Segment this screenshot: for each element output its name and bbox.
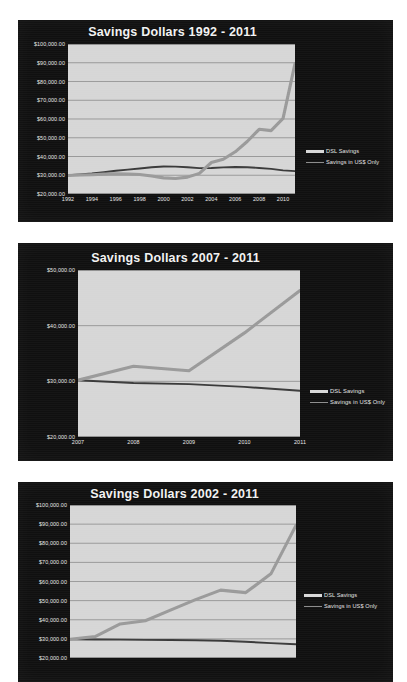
chart-panel-2007-2011: Savings Dollars 2007 - 2011 $50,000.00$4… bbox=[18, 243, 393, 461]
legend-item-usd: Savings in US$ Only bbox=[304, 603, 377, 609]
x-axis-tick-label: 2002 bbox=[181, 196, 193, 202]
series-line-usd bbox=[78, 380, 300, 391]
plot-area-2 bbox=[78, 270, 300, 437]
legend-swatch-usd-icon bbox=[310, 402, 328, 403]
y-axis-tick-label: $20,000.00 bbox=[47, 434, 75, 440]
x-axis-tick-label: 2009 bbox=[183, 439, 195, 445]
series-line-dsl bbox=[70, 525, 296, 639]
legend-item-usd: Savings in US$ Only bbox=[310, 399, 385, 405]
y-axis-tick-label: $60,000.00 bbox=[39, 579, 67, 585]
y-axis-tick-label: $90,000.00 bbox=[37, 60, 65, 66]
x-axis-labels-1: 1992199419961998200020022004200620082010 bbox=[68, 196, 295, 208]
legend-label-dsl: DSL Savings bbox=[324, 592, 357, 598]
legend-item-dsl: DSL Savings bbox=[306, 148, 379, 154]
x-axis-labels-2: 20072008200920102011 bbox=[78, 439, 300, 451]
y-axis-tick-label: $40,000.00 bbox=[47, 323, 75, 329]
legend-item-dsl: DSL Savings bbox=[310, 388, 385, 394]
x-axis-tick-label: 2007 bbox=[72, 439, 84, 445]
legend-1: DSL Savings Savings in US$ Only bbox=[306, 148, 379, 170]
y-axis-tick-label: $80,000.00 bbox=[37, 79, 65, 85]
y-axis-tick-label: $40,000.00 bbox=[37, 154, 65, 160]
y-axis-tick-label: $80,000.00 bbox=[39, 540, 67, 546]
x-axis-tick-label: 1994 bbox=[86, 196, 98, 202]
x-axis-tick-label: 2010 bbox=[238, 439, 250, 445]
legend-3: DSL Savings Savings in US$ Only bbox=[304, 592, 377, 614]
y-axis-tick-label: $40,000.00 bbox=[39, 617, 67, 623]
y-axis-tick-label: $30,000.00 bbox=[47, 378, 75, 384]
legend-label-dsl: DSL Savings bbox=[330, 388, 364, 394]
plot-svg-2 bbox=[78, 270, 300, 437]
series-line-dsl bbox=[78, 291, 300, 381]
x-axis-tick-label: 2008 bbox=[253, 196, 265, 202]
legend-swatch-usd-icon bbox=[306, 162, 324, 163]
plot-area-3 bbox=[70, 505, 296, 658]
series-line-usd bbox=[70, 639, 296, 644]
page-root: Savings Dollars 1992 - 2011 $100,000.00$… bbox=[0, 0, 407, 682]
y-axis-tick-label: $30,000.00 bbox=[37, 172, 65, 178]
legend-label-usd: Savings in US$ Only bbox=[330, 399, 385, 405]
legend-label-dsl: DSL Savings bbox=[326, 148, 359, 154]
x-axis-tick-label: 2000 bbox=[157, 196, 169, 202]
x-axis-tick-label: 2006 bbox=[229, 196, 241, 202]
y-axis-tick-label: $50,000.00 bbox=[37, 135, 65, 141]
legend-swatch-dsl-icon bbox=[310, 390, 328, 393]
y-axis-tick-label: $20,000.00 bbox=[39, 655, 67, 661]
legend-swatch-usd-icon bbox=[304, 606, 322, 607]
chart-panel-1992-2011: Savings Dollars 1992 - 2011 $100,000.00$… bbox=[18, 20, 393, 222]
y-axis-tick-label: $20,000.00 bbox=[37, 191, 65, 197]
legend-label-usd: Savings in US$ Only bbox=[324, 603, 377, 609]
plot-area-1 bbox=[68, 44, 295, 194]
y-axis-tick-label: $30,000.00 bbox=[39, 636, 67, 642]
x-axis-tick-label: 1992 bbox=[62, 196, 74, 202]
legend-label-usd: Savings in US$ Only bbox=[326, 159, 379, 165]
y-axis-tick-label: $50,000.00 bbox=[47, 267, 75, 273]
x-axis-tick-label: 2008 bbox=[127, 439, 139, 445]
y-axis-tick-label: $90,000.00 bbox=[39, 521, 67, 527]
x-axis-tick-label: 2010 bbox=[277, 196, 289, 202]
x-axis-tick-label: 1996 bbox=[110, 196, 122, 202]
chart-panel-2002-2011: Savings Dollars 2002 - 2011 $100,000.00$… bbox=[18, 482, 393, 682]
x-axis-tick-label: 2011 bbox=[294, 439, 306, 445]
y-axis-tick-label: $70,000.00 bbox=[37, 97, 65, 103]
y-axis-labels-3: $100,000.00$90,000.00$80,000.00$70,000.0… bbox=[18, 482, 67, 682]
plot-svg-1 bbox=[68, 44, 295, 194]
chart-title-1: Savings Dollars 1992 - 2011 bbox=[24, 25, 321, 39]
legend-swatch-dsl-icon bbox=[304, 594, 322, 597]
x-axis-tick-label: 2004 bbox=[205, 196, 217, 202]
x-axis-labels-3 bbox=[70, 660, 296, 672]
legend-2: DSL Savings Savings in US$ Only bbox=[310, 388, 385, 410]
legend-item-dsl: DSL Savings bbox=[304, 592, 377, 598]
series-line-dsl bbox=[68, 64, 295, 179]
y-axis-tick-label: $100,000.00 bbox=[36, 502, 67, 508]
y-axis-tick-label: $70,000.00 bbox=[39, 559, 67, 565]
plot-svg-3 bbox=[70, 505, 296, 658]
legend-item-usd: Savings in US$ Only bbox=[306, 159, 379, 165]
y-axis-tick-label: $60,000.00 bbox=[37, 116, 65, 122]
chart-title-3: Savings Dollars 2002 - 2011 bbox=[24, 487, 325, 501]
y-axis-tick-label: $50,000.00 bbox=[39, 598, 67, 604]
y-axis-labels-2: $50,000.00$40,000.00$30,000.00$20,000.00 bbox=[18, 243, 75, 461]
x-axis-tick-label: 1998 bbox=[133, 196, 145, 202]
legend-swatch-dsl-icon bbox=[306, 150, 324, 153]
y-axis-labels-1: $100,000.00$90,000.00$80,000.00$70,000.0… bbox=[18, 20, 65, 222]
y-axis-tick-label: $100,000.00 bbox=[34, 41, 65, 47]
